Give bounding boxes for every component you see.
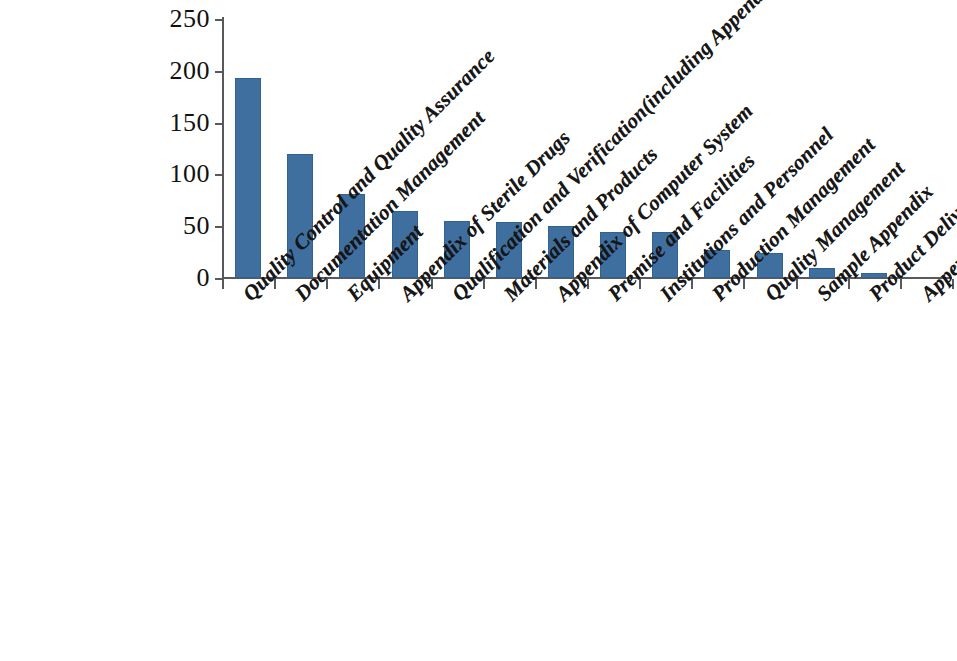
x-tick-mark [900,279,902,289]
x-tick-mark [743,279,745,289]
bar-chart: 050100150200250 Quality Control and Qual… [0,0,957,661]
x-tick-mark [691,279,693,289]
x-tick-mark [378,279,380,289]
x-tick-mark [483,279,485,289]
x-tick-mark [587,279,589,289]
y-tick-label: 0 [197,265,211,291]
y-tick-label: 100 [170,161,211,187]
y-tick-label: 150 [170,110,211,136]
x-tick-mark [222,279,224,289]
bar [496,222,522,278]
bar [652,232,678,278]
bar [757,253,783,278]
x-tick-mark [952,279,954,289]
bar [287,154,313,278]
bar [704,250,730,278]
x-tick-mark [431,279,433,289]
bar [339,194,365,278]
bar [548,226,574,278]
y-tick-label: 250 [170,6,211,32]
x-tick-mark [796,279,798,289]
x-tick-mark [535,279,537,289]
bars-container [222,19,952,278]
bar [809,268,835,278]
bar [600,232,626,278]
x-tick-mark [639,279,641,289]
bar [861,273,887,278]
x-tick-mark [848,279,850,289]
y-tick-label: 200 [170,58,211,84]
bar [235,78,261,278]
y-tick-label: 50 [183,213,210,239]
bar [444,221,470,278]
bar [392,211,418,278]
x-tick-mark [274,279,276,289]
x-tick-mark [326,279,328,289]
